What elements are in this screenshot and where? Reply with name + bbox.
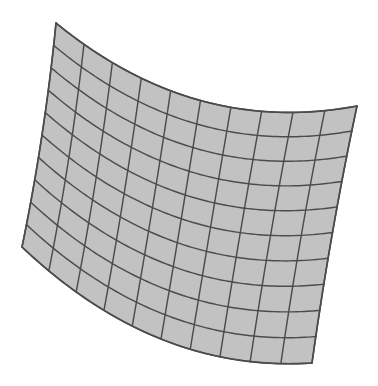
- mesh-cell: [284, 135, 320, 161]
- mesh-cell: [258, 285, 293, 311]
- mesh-cell: [236, 233, 270, 261]
- mesh-cell: [285, 310, 320, 337]
- mesh-cell: [266, 235, 301, 260]
- mesh-cell: [240, 208, 275, 235]
- mesh-cell: [228, 282, 262, 311]
- mesh-cell: [288, 111, 324, 137]
- mesh-cell: [306, 181, 342, 210]
- mesh-cell: [289, 284, 324, 312]
- mesh-cell: [297, 233, 333, 261]
- mesh-cell: [275, 185, 310, 211]
- mesh-cell: [254, 311, 289, 338]
- mesh-cell: [245, 184, 280, 211]
- mesh-cell: [224, 307, 258, 336]
- mesh-cell: [293, 258, 328, 286]
- curved-mesh-surface: [0, 0, 378, 386]
- mesh-cell: [232, 257, 266, 285]
- mesh-canvas-stage: [0, 0, 378, 386]
- mesh-cell: [271, 210, 306, 235]
- mesh-cell: [301, 207, 337, 235]
- mesh-cell: [253, 135, 288, 161]
- mesh-cell: [257, 111, 293, 136]
- mesh-cell: [281, 337, 316, 364]
- mesh-cell: [279, 160, 315, 186]
- mesh-cell: [249, 160, 284, 186]
- mesh-cell: [250, 336, 285, 364]
- mesh-cell: [262, 260, 297, 286]
